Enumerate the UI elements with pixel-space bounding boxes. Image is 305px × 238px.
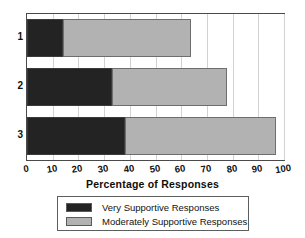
legend-label-very-supportive: Very Supportive Responses: [102, 202, 219, 213]
x-axis-tick-label: 50: [148, 162, 160, 175]
legend-label-moderately-supportive: Moderately Supportive Responses: [102, 216, 247, 227]
legend-swatch-moderately-supportive: [66, 217, 92, 226]
gridline: [284, 14, 285, 160]
legend-swatch-very-supportive: [66, 203, 92, 212]
bar-segment: [125, 117, 277, 155]
x-axis-tick-label: 0: [23, 163, 30, 175]
plot-area: [26, 13, 285, 161]
y-axis-tick-label: 1: [1, 32, 23, 42]
x-axis-tick-label: 90: [251, 162, 263, 175]
x-axis-tick-label: 100: [274, 162, 291, 175]
x-axis-tick-label: 80: [226, 162, 238, 175]
bar-segment: [27, 19, 63, 57]
x-axis-tick-label: 40: [123, 162, 135, 175]
bar-segment: [63, 19, 192, 57]
x-axis-tick-label: 60: [174, 162, 186, 175]
x-axis-tick-label: 10: [46, 162, 58, 175]
bar-row: [27, 117, 284, 155]
legend-item: Very Supportive Responses: [66, 200, 248, 214]
x-axis-tick-label: 70: [200, 162, 212, 175]
stacked-bar-chart: 123 0102030405060708090100 Percentage of…: [0, 0, 305, 238]
bar-row: [27, 19, 284, 57]
bar-segment: [27, 117, 125, 155]
y-axis-tick-labels: 123: [0, 13, 23, 161]
bar-row: [27, 68, 284, 106]
y-axis-tick-label: 2: [1, 81, 23, 91]
x-axis-tick-label: 20: [71, 162, 83, 175]
bar-segment: [112, 68, 228, 106]
legend: Very Supportive Responses Moderately Sup…: [57, 196, 249, 231]
x-axis-tick-label: 30: [97, 162, 109, 175]
legend-item: Moderately Supportive Responses: [66, 214, 248, 228]
x-axis-title: Percentage of Responses: [0, 178, 305, 190]
bar-segment: [27, 68, 112, 106]
y-axis-tick-label: 3: [1, 130, 23, 140]
